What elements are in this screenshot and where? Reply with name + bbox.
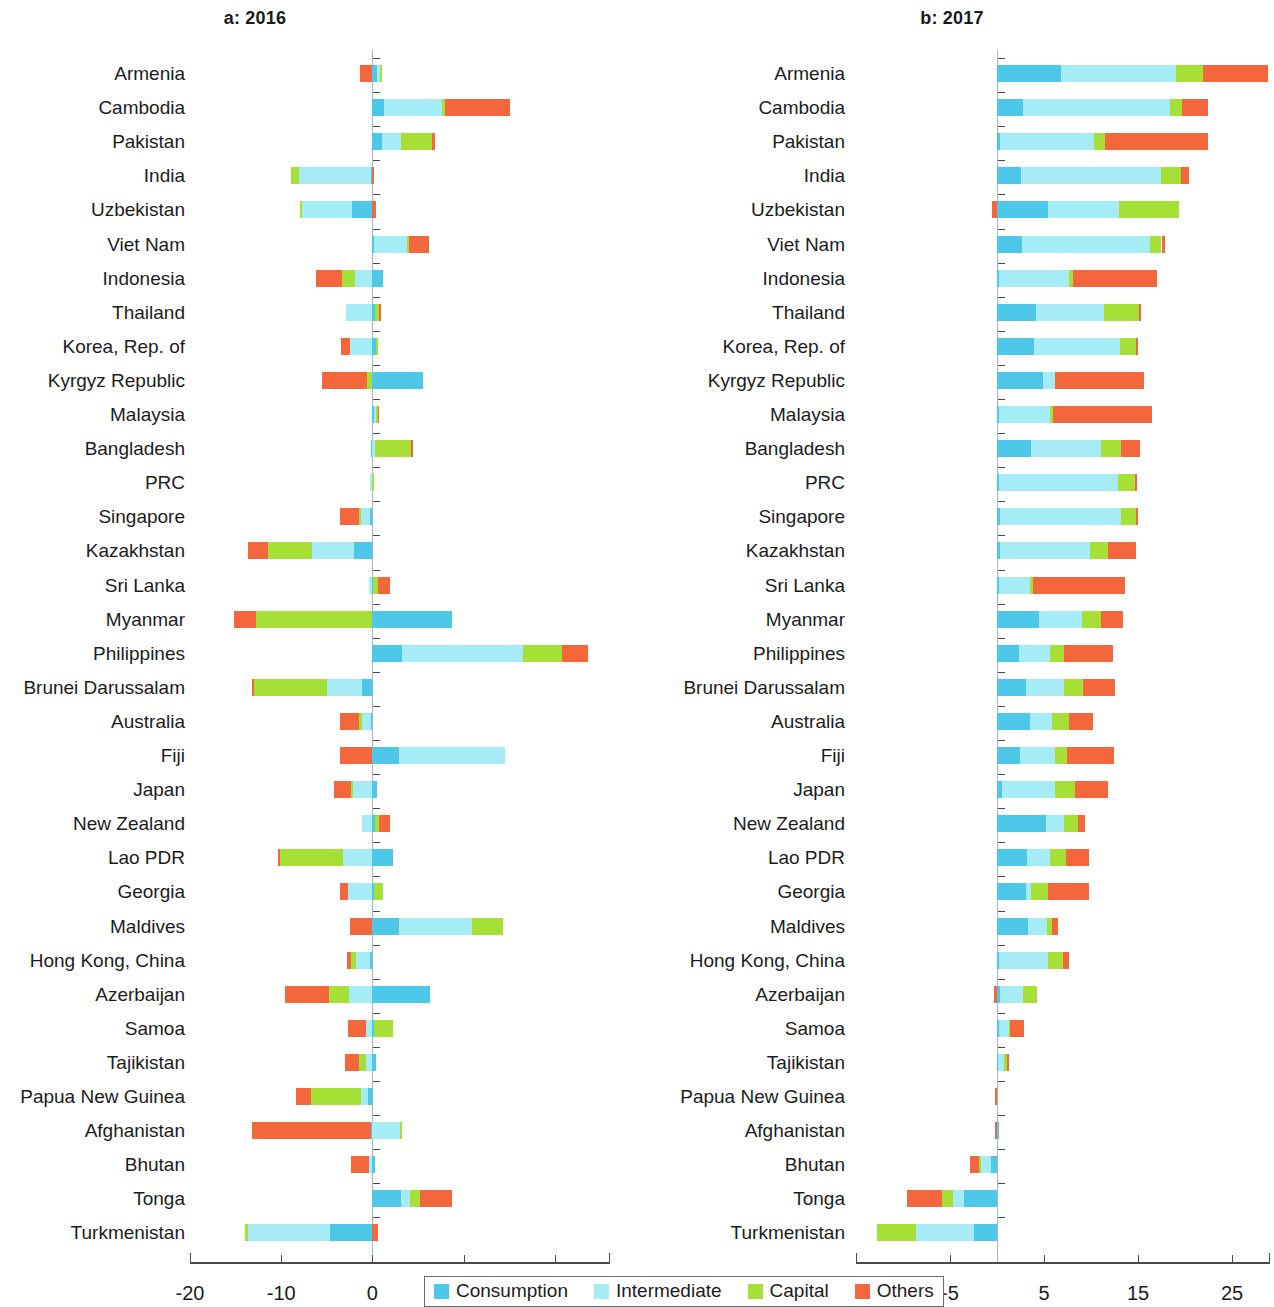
category-label: Papua New Guinea: [680, 1087, 845, 1106]
bar-segment: [370, 508, 373, 525]
bar-segment: [1000, 508, 1121, 525]
bar-segment: [1010, 1020, 1024, 1037]
bar-segment: [1150, 236, 1161, 253]
bar-segment: [1027, 849, 1050, 866]
category-label: Korea, Rep. of: [62, 337, 185, 356]
bar-segment: [374, 236, 407, 253]
bar-segment: [374, 1020, 393, 1037]
bar-segment: [268, 542, 312, 559]
bar-segment: [997, 679, 1026, 696]
legend-item: Consumption: [434, 1280, 568, 1302]
bar-segment: [1069, 713, 1093, 730]
y-axis-tick: [373, 604, 380, 605]
category-label: Hong Kong, China: [30, 951, 185, 970]
y-axis-tick: [998, 1217, 1005, 1218]
y-axis-tick: [373, 774, 380, 775]
category-label: Maldives: [110, 917, 185, 936]
bar-segment: [1021, 167, 1161, 184]
y-axis-tick: [373, 638, 380, 639]
y-axis-tick: [998, 1013, 1005, 1014]
category-label: Malaysia: [770, 405, 845, 424]
y-axis-tick: [373, 1217, 380, 1218]
bar-segment: [1182, 99, 1207, 116]
bar-segment: [372, 167, 374, 184]
category-label: Pakistan: [112, 132, 185, 151]
bar-segment: [372, 1054, 376, 1071]
category-label: Fiji: [821, 746, 845, 765]
category-label: Lao PDR: [108, 848, 185, 867]
bar-segment: [999, 1020, 1009, 1037]
y-axis-tick: [998, 467, 1005, 468]
bar-segment: [997, 645, 1019, 662]
bar-segment: [1031, 883, 1048, 900]
bar-segment: [997, 304, 1036, 321]
bar-segment: [302, 201, 352, 218]
bar-segment: [1073, 270, 1157, 287]
category-label: Myanmar: [106, 610, 185, 629]
category-label: Australia: [111, 712, 185, 731]
y-axis-tick: [373, 1183, 380, 1184]
bar-segment: [380, 65, 382, 82]
category-label: Samoa: [125, 1019, 185, 1038]
legend-label: Capital: [770, 1280, 829, 1302]
x-axis-tick: [950, 1255, 951, 1262]
bar-segment: [1030, 713, 1053, 730]
bar-segment: [372, 201, 376, 218]
category-label: Bhutan: [125, 1155, 185, 1174]
bar-segment: [942, 1190, 952, 1207]
bar-segment: [1120, 338, 1136, 355]
y-axis-tick: [373, 58, 380, 59]
y-axis-tick: [373, 399, 380, 400]
category-label: Sri Lanka: [765, 576, 845, 595]
x-axis-tick-label: 0: [367, 1282, 378, 1305]
bar-segment: [999, 474, 1118, 491]
bar-segment: [285, 986, 329, 1003]
bar-segment: [248, 1224, 330, 1241]
y-axis-tick: [373, 160, 380, 161]
bar-segment: [372, 611, 451, 628]
category-label: PRC: [805, 473, 845, 492]
bar-segment: [350, 918, 373, 935]
y-axis-tick: [373, 467, 380, 468]
y-axis-tick: [998, 911, 1005, 912]
y-axis-tick: [998, 535, 1005, 536]
bar-segment: [346, 304, 372, 321]
bar-segment: [1101, 440, 1121, 457]
y-axis-tick: [998, 1047, 1005, 1048]
category-label: Bhutan: [785, 1155, 845, 1174]
bar-segment: [1050, 849, 1066, 866]
y-axis-tick: [373, 911, 380, 912]
category-label: Armenia: [774, 64, 845, 83]
bar-segment: [1052, 713, 1069, 730]
x-axis-tick-label: 15: [1127, 1282, 1149, 1305]
y-axis-tick: [998, 365, 1005, 366]
bar-segment: [372, 1190, 400, 1207]
category-label: Sri Lanka: [105, 576, 185, 595]
category-label: Armenia: [114, 64, 185, 83]
category-label: Cambodia: [98, 98, 185, 117]
y-axis-tick: [998, 1115, 1005, 1116]
bar-segment: [248, 542, 268, 559]
category-label: Maldives: [770, 917, 845, 936]
bar-segment: [401, 133, 432, 150]
legend-label: Consumption: [456, 1280, 568, 1302]
bar-segment: [1064, 815, 1078, 832]
bar-segment: [280, 849, 343, 866]
bar-segment: [372, 1224, 377, 1241]
x-axis-tick: [1232, 1255, 1233, 1262]
bar-segment: [999, 952, 1048, 969]
bar-segment: [382, 133, 400, 150]
y-axis-tick: [998, 808, 1005, 809]
category-label: Viet Nam: [107, 235, 185, 254]
category-label: Korea, Rep. of: [722, 337, 845, 356]
bar-segment: [372, 270, 383, 287]
bar-segment: [384, 99, 441, 116]
y-axis-tick: [998, 706, 1005, 707]
bar-segment: [372, 986, 429, 1003]
y-axis-tick: [373, 126, 380, 127]
bar-segment: [1000, 542, 1090, 559]
x-axis-tick: [1138, 1255, 1139, 1262]
category-label: Turkmenistan: [71, 1223, 185, 1242]
category-label: Kyrgyz Republic: [48, 371, 185, 390]
y-axis-tick: [373, 433, 380, 434]
